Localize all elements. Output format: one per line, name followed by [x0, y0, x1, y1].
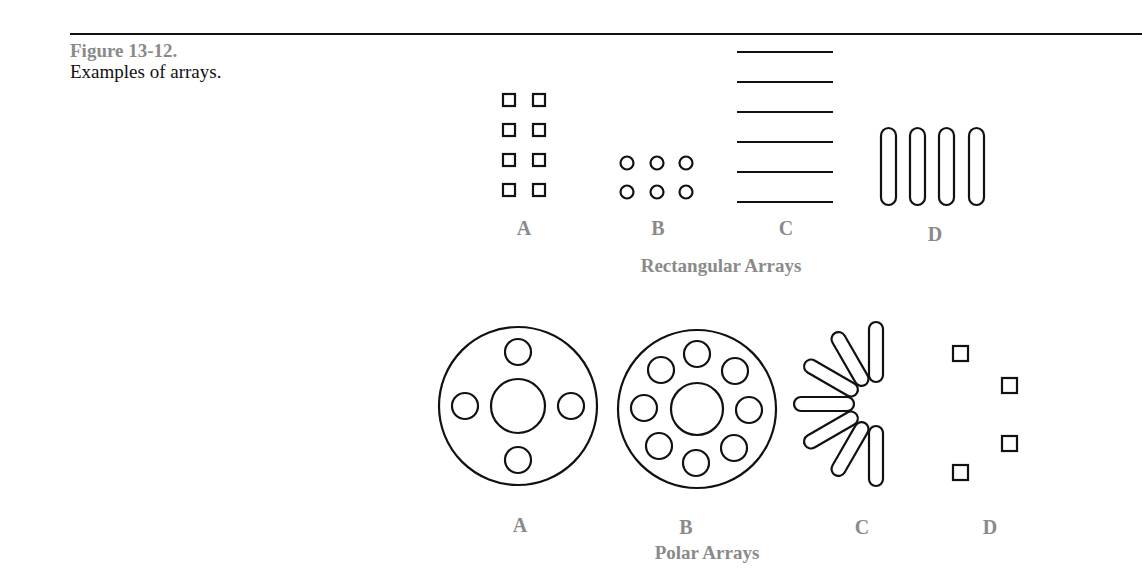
polar-array-a-4-holes — [439, 327, 597, 485]
rectangular-arrays-title: Rectangular Arrays — [641, 255, 802, 277]
rect-label-c: C — [779, 217, 793, 240]
rect-array-c-lines — [737, 52, 833, 202]
polar-label-b: B — [679, 516, 692, 539]
rect-label-d: D — [928, 223, 942, 246]
polar-label-a: A — [513, 514, 527, 537]
polar-array-d-squares — [953, 346, 1017, 480]
rect-array-b-circles — [621, 157, 693, 199]
rect-array-a-squares — [503, 94, 545, 196]
arrays-diagram — [0, 0, 1142, 572]
rect-label-a: A — [517, 217, 531, 240]
polar-arrays-title: Polar Arrays — [655, 542, 760, 564]
polar-array-b-8-holes — [618, 330, 776, 488]
polar-array-c-slots — [794, 322, 883, 486]
polar-label-d: D — [983, 516, 997, 539]
rect-array-d-slots — [881, 128, 984, 205]
rect-label-b: B — [651, 217, 664, 240]
polar-label-c: C — [855, 516, 869, 539]
